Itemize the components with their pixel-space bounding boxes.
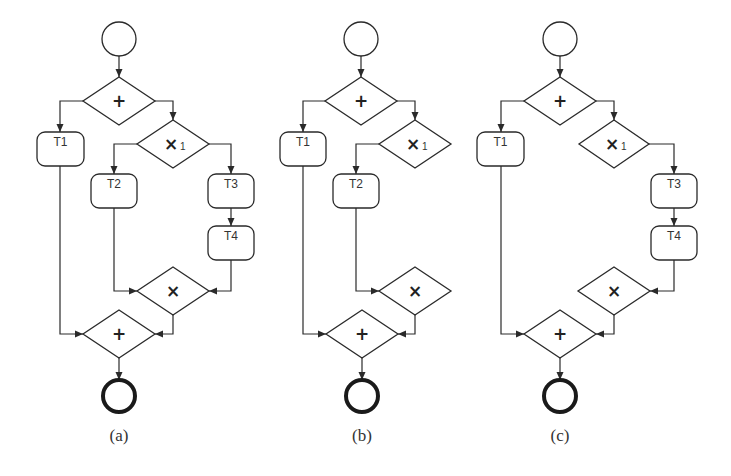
parallel-gateway-and-split: + <box>83 77 155 125</box>
task-label: T3 <box>224 177 238 191</box>
edge-T3-to-T4 <box>671 208 678 226</box>
cross-icon: × <box>408 281 422 301</box>
edge-T1-to-and-join <box>501 166 524 338</box>
task-T3: T3 <box>651 174 697 208</box>
edge-xor-split-to-T3 <box>649 144 678 174</box>
parallel-gateway-and-split: + <box>325 77 397 125</box>
task-T4: T4 <box>208 226 254 260</box>
exclusive-gateway-xor-split: ×1 <box>379 120 451 168</box>
exclusive-gateway-xor-join: × <box>578 267 650 315</box>
task-T2: T2 <box>91 174 137 208</box>
task-T1: T1 <box>280 132 326 166</box>
panel-caption: (b) <box>352 426 372 445</box>
edge-xor-join-to-and-join <box>155 315 173 338</box>
end-event-icon <box>544 380 576 412</box>
edge-and-split-to-xor-split <box>397 101 419 120</box>
arrowhead-icon <box>596 331 604 338</box>
arrowhead-icon <box>57 124 64 132</box>
parallel-gateway-and-join: + <box>524 310 596 358</box>
panel-a: +T1×1T2T3T4×+(a) <box>37 22 254 445</box>
arrowhead-icon <box>557 69 564 77</box>
arrowhead-icon <box>671 218 678 226</box>
edge-start-to-and-split <box>358 56 365 77</box>
end-event-icon <box>346 380 378 412</box>
panel-c: +T1×1T3T4×+(c) <box>477 22 697 445</box>
arrowhead-icon <box>170 112 177 120</box>
cross-icon: × <box>406 134 420 154</box>
plus-icon: + <box>112 91 126 111</box>
edge-T2-to-xor-join <box>356 208 379 295</box>
arrowhead-icon <box>228 166 235 174</box>
process-diagram-figure: +T1×1T2T3T4×+(a) +T1×1T2×+(b) +T1×1T3T4×… <box>0 0 731 476</box>
cross-icon: × <box>164 134 178 154</box>
parallel-gateway-and-split: + <box>524 77 596 125</box>
arrowhead-icon <box>75 331 83 338</box>
edge-xor-split-to-T2 <box>353 144 380 174</box>
task-T3: T3 <box>208 174 254 208</box>
plus-icon: + <box>354 91 368 111</box>
arrowhead-icon <box>209 288 217 295</box>
panel-b: +T1×1T2×+(b) <box>280 22 451 445</box>
start-event-icon <box>344 22 378 56</box>
task-label: T2 <box>107 177 121 191</box>
edge-xor-join-to-and-join <box>596 315 614 338</box>
arrowhead-icon <box>611 112 618 120</box>
edge-T1-to-and-join <box>60 166 83 338</box>
plus-icon: + <box>355 324 369 344</box>
arrowhead-icon <box>412 112 419 120</box>
edge-T4-to-xor-join <box>650 260 674 295</box>
exclusive-gateway-xor-split: ×1 <box>579 120 649 168</box>
task-T4: T4 <box>651 226 697 260</box>
arrowhead-icon <box>155 331 163 338</box>
edge-and-split-to-T1 <box>57 101 84 132</box>
task-label: T1 <box>493 135 507 149</box>
task-T2: T2 <box>333 174 379 208</box>
arrowhead-icon <box>498 124 505 132</box>
task-label: T1 <box>296 135 310 149</box>
edge-T3-to-T4 <box>228 208 235 226</box>
cross-icon: × <box>607 281 621 301</box>
edge-T4-to-xor-join <box>209 260 231 295</box>
edge-T1-to-and-join <box>303 166 326 338</box>
arrowhead-icon <box>111 166 118 174</box>
arrowhead-icon <box>516 331 524 338</box>
edge-xor-split-to-T3 <box>209 144 235 174</box>
cross-icon: × <box>605 134 619 154</box>
edge-and-join-to-end <box>116 358 123 380</box>
edge-xor-split-to-T2 <box>111 144 138 174</box>
exclusive-gateway-xor-join: × <box>379 267 451 315</box>
gateway-subscript: 1 <box>621 141 627 152</box>
end-event-icon <box>103 380 135 412</box>
arrowhead-icon <box>398 331 406 338</box>
gateway-subscript: 1 <box>422 141 428 152</box>
parallel-gateway-and-join: + <box>326 310 398 358</box>
edge-start-to-and-split <box>557 56 564 77</box>
arrowhead-icon <box>358 69 365 77</box>
edge-and-split-to-T1 <box>498 101 525 132</box>
edge-start-to-and-split <box>116 56 123 77</box>
edge-xor-join-to-and-join <box>398 315 415 338</box>
task-label: T2 <box>349 177 363 191</box>
edge-and-join-to-end <box>359 358 366 380</box>
gateway-subscript: 1 <box>180 141 186 152</box>
cross-icon: × <box>166 281 180 301</box>
task-label: T4 <box>667 229 681 243</box>
arrowhead-icon <box>318 331 326 338</box>
arrowhead-icon <box>671 166 678 174</box>
edge-and-join-to-end <box>557 358 564 380</box>
edge-T2-to-xor-join <box>114 208 137 295</box>
arrowhead-icon <box>228 218 235 226</box>
task-label: T3 <box>667 177 681 191</box>
panel-caption: (c) <box>551 426 570 445</box>
exclusive-gateway-xor-join: × <box>137 267 209 315</box>
edge-and-split-to-xor-split <box>596 101 618 120</box>
parallel-gateway-and-join: + <box>83 310 155 358</box>
task-T1: T1 <box>37 132 84 166</box>
arrowhead-icon <box>300 124 307 132</box>
plus-icon: + <box>553 91 567 111</box>
plus-icon: + <box>112 324 126 344</box>
arrowhead-icon <box>353 166 360 174</box>
task-label: T4 <box>224 229 238 243</box>
task-T1: T1 <box>477 132 524 166</box>
arrowhead-icon <box>116 69 123 77</box>
